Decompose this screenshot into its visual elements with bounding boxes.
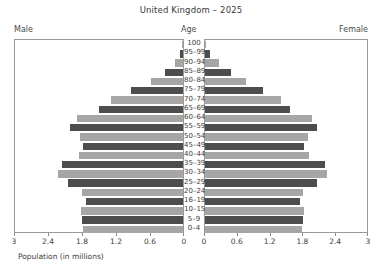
bar-row [15, 189, 183, 196]
age-label: 65–69 [184, 105, 204, 112]
bar-female-25_29 [205, 179, 317, 186]
bar-row [15, 78, 183, 85]
bar-row [205, 133, 367, 140]
population-pyramid-chart: United Kingdom – 2025 Male Age Female 10… [0, 0, 382, 273]
bar-male-35_39 [62, 161, 183, 168]
bar-row [205, 207, 367, 214]
axis-tick-label: 1.2 [110, 237, 122, 246]
male-header-label: Male [14, 25, 33, 34]
axis-tick-label: 1.2 [264, 237, 276, 246]
bar-row [15, 69, 183, 76]
bar-male-60_64 [77, 115, 183, 122]
age-axis-labels: 10095–9990–9485–8980–8475–7970–7465–6960… [184, 39, 204, 233]
bar-female-5_9 [205, 216, 303, 223]
bar-female-95_99 [205, 50, 210, 57]
bar-row [205, 115, 367, 122]
bar-row [15, 133, 183, 140]
bar-row [15, 152, 183, 159]
bar-female-100 [205, 41, 206, 48]
bar-row [205, 143, 367, 150]
axis-tick-mark [116, 233, 117, 236]
bar-row [15, 106, 183, 113]
axis-tick-label: 1.8 [76, 237, 88, 246]
age-label: 85–89 [184, 68, 204, 75]
male-x-axis: 32.41.81.20.60 [14, 233, 184, 251]
bar-female-20_24 [205, 189, 303, 196]
bar-male-75_79 [131, 87, 183, 94]
bar-row [205, 124, 367, 131]
bar-row [205, 78, 367, 85]
male-bars-layer [15, 40, 183, 232]
axis-tick-mark [183, 233, 184, 236]
bar-male-10_15 [81, 207, 183, 214]
bar-female-80_84 [205, 78, 246, 85]
bar-male-90_94 [175, 59, 183, 66]
bar-female-30_34 [205, 170, 327, 177]
axis-tick-mark [48, 233, 49, 236]
age-label: 100 [184, 40, 204, 47]
age-label: 90–94 [184, 59, 204, 66]
bar-female-45_49 [205, 143, 304, 150]
bar-row [205, 216, 367, 223]
bar-row [15, 179, 183, 186]
bar-male-5_9 [82, 216, 183, 223]
bar-row [205, 41, 367, 48]
bar-male-100 [182, 41, 183, 48]
bar-row [205, 87, 367, 94]
axis-tick-label: 0.6 [231, 237, 243, 246]
female-bars-layer [205, 40, 367, 232]
bar-row [15, 96, 183, 103]
age-label: 35–39 [184, 160, 204, 167]
bar-row [205, 96, 367, 103]
bar-row [15, 50, 183, 57]
axis-tick-mark [270, 233, 271, 236]
age-label: 30–34 [184, 169, 204, 176]
axis-tick-label: 2.4 [42, 237, 54, 246]
bar-male-45_49 [83, 143, 183, 150]
axis-tick-label: 2.4 [329, 237, 341, 246]
age-label: 75–79 [184, 86, 204, 93]
age-label: 25–29 [184, 179, 204, 186]
bar-female-40_44 [205, 152, 309, 159]
female-plot-panel [204, 39, 368, 233]
bar-female-0_4 [205, 226, 302, 233]
bar-row [205, 69, 367, 76]
bar-row [15, 207, 183, 214]
female-x-axis: 00.61.21.82.43 [204, 233, 368, 251]
bar-row [15, 124, 183, 131]
age-label: 60–64 [184, 114, 204, 121]
bar-male-16_19 [86, 198, 183, 205]
age-label: 95–99 [184, 49, 204, 56]
bar-row [205, 161, 367, 168]
bar-row [15, 115, 183, 122]
bar-male-70_74 [111, 96, 183, 103]
female-header-label: Female [339, 25, 368, 34]
age-label: 5–9 [184, 216, 204, 223]
bar-row [205, 179, 367, 186]
bar-male-95_99 [180, 50, 183, 57]
axis-tick-label: 3 [366, 237, 371, 246]
chart-title: United Kingdom – 2025 [0, 5, 382, 15]
bar-female-70_74 [205, 96, 281, 103]
bar-male-55_59 [70, 124, 183, 131]
bar-female-75_79 [205, 87, 263, 94]
age-header-label: Age [181, 25, 196, 34]
bar-male-30_34 [58, 170, 183, 177]
axis-tick-label: 0 [202, 237, 207, 246]
bar-female-60_64 [205, 115, 312, 122]
age-label: 40–44 [184, 151, 204, 158]
bar-row [15, 161, 183, 168]
axis-tick-mark [14, 233, 15, 236]
bar-row [205, 170, 367, 177]
bar-male-0_4 [83, 226, 183, 233]
bar-row [15, 198, 183, 205]
bar-row [205, 106, 367, 113]
axis-tick-mark [335, 233, 336, 236]
axis-tick-mark [204, 233, 205, 236]
bar-male-25_29 [68, 179, 183, 186]
bar-row [205, 152, 367, 159]
age-label: 10–15 [184, 206, 204, 213]
age-label: 50–54 [184, 133, 204, 140]
bar-row [205, 59, 367, 66]
bar-female-85_89 [205, 69, 231, 76]
